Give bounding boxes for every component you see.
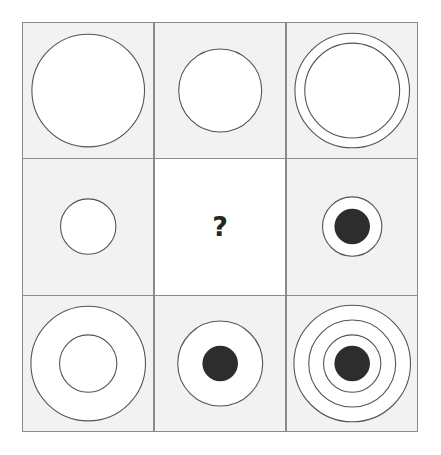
cell-r2c1	[23, 159, 153, 294]
cell-r2c3-solid-center	[334, 209, 370, 245]
cell-r2c3-shapes	[287, 159, 417, 294]
cell-r2c3	[287, 159, 417, 294]
cell-r1c1	[23, 23, 153, 158]
cell-r3c2-solid-center	[202, 346, 238, 382]
cell-r1c1-shapes	[23, 23, 153, 158]
cell-r1c3-ring-2	[304, 43, 399, 138]
cell-r3c2-shapes	[155, 296, 285, 431]
cell-r3c1	[23, 296, 153, 431]
cell-r3c1-ring-2	[60, 335, 117, 392]
cell-r1c3-shapes	[287, 23, 417, 158]
cell-r2c2-missing[interactable]: ?	[155, 159, 285, 294]
cell-r2c1-shapes	[23, 159, 153, 294]
matrix-puzzle-root: ?	[0, 0, 441, 455]
cell-r2c1-ring-1	[61, 199, 116, 254]
cell-r1c2-shapes	[155, 23, 285, 158]
cell-r3c3	[287, 296, 417, 431]
cell-r1c2-ring-1	[179, 49, 262, 132]
cell-r3c2	[155, 296, 285, 431]
matrix-grid: ?	[22, 22, 418, 432]
cell-r1c3	[287, 23, 417, 158]
missing-cell-marker: ?	[155, 159, 285, 294]
cell-r1c1-ring-1	[32, 34, 145, 147]
cell-r1c2	[155, 23, 285, 158]
cell-r3c3-shapes	[287, 296, 417, 431]
cell-r3c3-solid-center	[334, 346, 370, 382]
cell-r3c1-shapes	[23, 296, 153, 431]
